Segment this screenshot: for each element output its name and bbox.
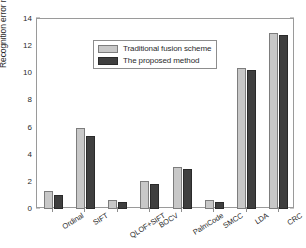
y-tick-label-8: 8 xyxy=(0,95,36,104)
bar-smcc-series-0 xyxy=(205,200,214,209)
bar-lda-series-0 xyxy=(237,68,246,209)
y-tick-label-4: 4 xyxy=(0,149,36,158)
legend-item-traditional-fusion-scheme: Traditional fusion scheme xyxy=(98,44,211,53)
bar-crc-series-1 xyxy=(279,35,288,209)
legend-label-series-0: Traditional fusion scheme xyxy=(123,44,211,53)
bar-smcc-series-1 xyxy=(215,202,224,209)
x-tick-label-sift: SIFT xyxy=(92,211,110,227)
y-tick-label-0: 0 xyxy=(0,204,36,213)
bar-bocv-series-0 xyxy=(140,181,149,210)
bar-qlof-sift-series-1 xyxy=(118,202,127,209)
y-tick-label-14: 14 xyxy=(0,14,36,23)
legend-swatch-icon-series-1 xyxy=(98,57,118,65)
bar-qlof-sift-series-0 xyxy=(108,200,117,209)
y-axis-label: Recognition error rate(%) xyxy=(0,0,8,68)
y-tick-label-6: 6 xyxy=(0,122,36,131)
legend-swatch-icon-series-0 xyxy=(98,45,118,53)
x-tick-label-palmcode: PalmCode xyxy=(191,211,225,237)
plot-area: Traditional fusion scheme The proposed m… xyxy=(36,18,294,208)
y-tick-label-10: 10 xyxy=(0,68,36,77)
bar-sift-series-0 xyxy=(76,128,85,209)
bar-crc-series-0 xyxy=(269,33,278,209)
bar-bocv-series-1 xyxy=(150,184,159,209)
bar-lda-series-1 xyxy=(247,70,256,209)
x-tick-label-crc: CRC xyxy=(285,211,303,227)
x-tick-label-lda: LDA xyxy=(253,211,270,226)
bar-palmcode-series-1 xyxy=(183,169,192,209)
bar-ordinal-series-1 xyxy=(54,195,63,209)
legend: Traditional fusion scheme The proposed m… xyxy=(93,40,217,69)
legend-item-the-proposed-method: The proposed method xyxy=(98,56,211,65)
x-tick-label-ordinal: Ordinal xyxy=(61,211,86,231)
y-tick-label-2: 2 xyxy=(0,176,36,185)
bar-sift-series-1 xyxy=(86,136,95,209)
x-tick-label-smcc: SMCC xyxy=(222,211,245,230)
figure-canvas: Recognition error rate(%) 02468101214 Or… xyxy=(0,0,306,248)
bar-ordinal-series-0 xyxy=(44,191,53,209)
legend-label-series-1: The proposed method xyxy=(123,56,199,65)
y-tick-label-12: 12 xyxy=(0,41,36,50)
bar-palmcode-series-0 xyxy=(173,167,182,209)
